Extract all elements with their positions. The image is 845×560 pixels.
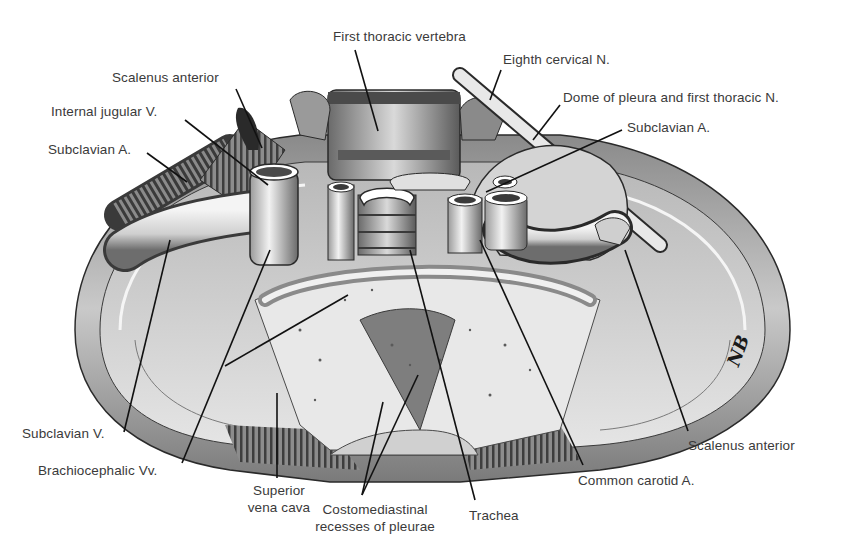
anatomy-figure: First thoracic vertebra Eighth cervical …	[0, 0, 845, 560]
label-subclavian-a-left: Subclavian A.	[48, 141, 131, 158]
label-trachea: Trachea	[469, 507, 519, 524]
label-first-thoracic-vertebra: First thoracic vertebra	[333, 28, 466, 45]
label-common-carotid-a: Common carotid A.	[578, 472, 695, 489]
label-costomediastinal-line1: Costomediastinal	[305, 501, 445, 518]
label-costomediastinal-line2: recesses of pleurae	[305, 518, 445, 535]
label-dome-of-pleura: Dome of pleura and first thoracic N.	[563, 89, 779, 106]
label-eighth-cervical-n: Eighth cervical N.	[503, 51, 610, 68]
label-subclavian-a-right: Subclavian A.	[627, 119, 710, 136]
label-scalenus-anterior-left: Scalenus anterior	[112, 69, 219, 86]
label-internal-jugular-v: Internal jugular V.	[51, 103, 157, 120]
label-subclavian-v: Subclavian V.	[22, 425, 105, 442]
label-superior-vena-cava-line1: Superior	[224, 482, 334, 499]
label-brachiocephalic-vv: Brachiocephalic Vv.	[38, 462, 157, 479]
label-costomediastinal-recesses: Costomediastinal recesses of pleurae	[305, 501, 445, 535]
label-scalenus-anterior-right: Scalenus anterior	[688, 437, 795, 454]
